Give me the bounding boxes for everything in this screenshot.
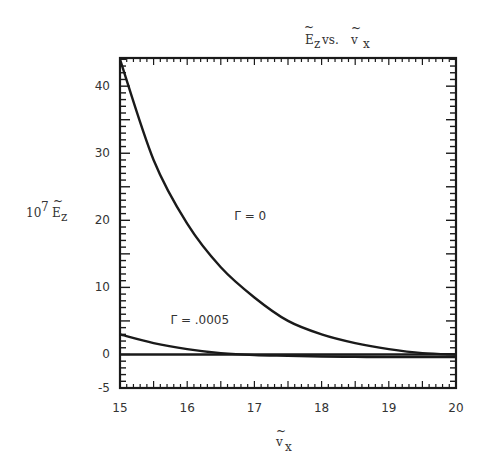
title-vs: vs. [321,33,339,47]
y-tick-label: 0 [102,347,110,361]
x-tick-label: 18 [314,401,329,415]
x-axis-label: v ~ x [275,424,292,454]
title-sub-z: z [314,37,320,51]
curve-annotation: Γ = .0005 [170,313,229,327]
title-e: E [305,33,314,47]
x-tick-label: 15 [112,401,127,415]
y-tick-label: -5 [98,381,110,395]
title-v: v [350,33,358,47]
x-tick-label: 19 [381,401,396,415]
xlabel-tilde: ~ [276,424,286,438]
title-sub-x: x [363,37,370,51]
annotations: Γ = 0Γ = .0005 [170,209,266,327]
ylabel-tilde: ~ [53,194,63,208]
x-tick-label: 20 [448,401,463,415]
axes-box [120,58,456,388]
chart-title: E ~ z vs. v ~ x [304,20,370,51]
title-tilde2: ~ [351,21,361,35]
curve-annotation: Γ = 0 [234,209,266,223]
x-tick-label: 17 [247,401,262,415]
ylabel-sub: z [61,210,67,224]
y-tick-label: 10 [95,280,110,294]
series-line [120,59,456,354]
title-tilde: ~ [304,20,314,34]
plot-frame [120,58,456,388]
y-tick-label: 40 [95,79,110,93]
y-axis-label: 10 7 E ~ z [26,194,67,224]
tick-labels: 151617181920403020100-5 [95,79,464,415]
y-tick-label: 30 [95,146,110,160]
ylabel-coef: 10 [26,206,41,220]
chart: E ~ z vs. v ~ x 10 7 E ~ z v ~ x 1516171… [0,0,480,472]
axis-ticks [120,58,456,388]
y-tick-label: 20 [95,213,110,227]
x-tick-label: 16 [180,401,195,415]
ylabel-e: E [52,206,61,220]
xlabel-sub: x [285,440,292,454]
ylabel-exp: 7 [41,200,49,214]
